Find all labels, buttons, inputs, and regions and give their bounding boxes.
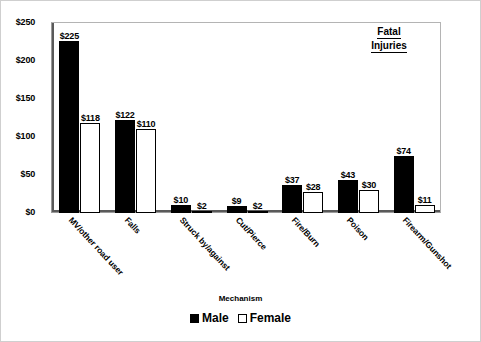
- category-label: Struck by/against: [178, 215, 232, 272]
- bar-chart: $250 $200 $150 $100 $50 $0 $225$118$122$…: [0, 0, 481, 342]
- chart-title: Fatal Injuries: [346, 25, 432, 53]
- bar-value-label: $9: [232, 196, 242, 206]
- bar-value-label: $28: [306, 182, 320, 192]
- bar-value-label: $30: [362, 180, 376, 190]
- bar-value-label: $2: [197, 201, 207, 211]
- bar-group: $225$118: [59, 22, 100, 213]
- bar-female[interactable]: $11: [415, 205, 435, 213]
- legend-item-female[interactable]: Female: [238, 311, 291, 325]
- category-label: Firearm/Gunshot: [401, 215, 454, 271]
- legend-label-female: Female: [250, 311, 291, 325]
- bar-male[interactable]: $74: [394, 156, 414, 213]
- category-label: Falls: [122, 215, 142, 236]
- bar-female[interactable]: $110: [136, 129, 156, 213]
- bar-male[interactable]: $225: [59, 41, 79, 213]
- bar-value-label: $225: [60, 31, 79, 41]
- y-tick-label: $250: [1, 17, 35, 27]
- bar-value-label: $74: [396, 146, 410, 156]
- legend-label-male: Male: [202, 311, 229, 325]
- bar-value-label: $10: [174, 195, 188, 205]
- category-axis-labels: MV/other road userFallsStruck by/against…: [51, 215, 441, 301]
- y-tick-label: $200: [1, 55, 35, 65]
- x-axis-title: Mechanism: [1, 294, 480, 303]
- bar-male[interactable]: $122: [115, 120, 135, 213]
- chart-title-line-2: Injuries: [371, 39, 407, 53]
- legend-swatch-female-icon: [238, 314, 247, 323]
- bar-group: $9$2: [227, 22, 268, 213]
- category-label: Fire/Burn: [289, 215, 321, 249]
- bar-female[interactable]: $2: [248, 211, 268, 213]
- bar-group: $37$28: [282, 22, 323, 213]
- y-tick-label: $150: [1, 93, 35, 103]
- category-label: Poison: [345, 215, 371, 242]
- bar-female[interactable]: $118: [80, 123, 100, 213]
- bar-value-label: $118: [81, 113, 100, 123]
- bar-male[interactable]: $10: [171, 205, 191, 213]
- chart-title-line-1: Fatal: [377, 25, 400, 39]
- bar-value-label: $122: [115, 110, 134, 120]
- bar-value-label: $43: [341, 170, 355, 180]
- legend: Male Female: [1, 311, 480, 325]
- bar-male[interactable]: $37: [282, 185, 302, 213]
- bar-group: $122$110: [115, 22, 156, 213]
- bar-male[interactable]: $9: [227, 206, 247, 213]
- bar-value-label: $2: [253, 201, 263, 211]
- bar-male[interactable]: $43: [338, 180, 358, 213]
- y-tick-label: $50: [1, 169, 35, 179]
- bar-group: $10$2: [171, 22, 212, 213]
- bar-value-label: $11: [418, 195, 432, 205]
- legend-swatch-male-icon: [190, 314, 199, 323]
- y-tick-label: $100: [1, 131, 35, 141]
- bar-female[interactable]: $2: [192, 211, 212, 213]
- category-label: Cut/Pierce: [234, 215, 269, 252]
- bar-female[interactable]: $30: [359, 190, 379, 213]
- legend-item-male[interactable]: Male: [190, 311, 229, 325]
- bar-value-label: $37: [285, 175, 299, 185]
- bar-female[interactable]: $28: [303, 192, 323, 213]
- y-tick-label: $0: [1, 207, 35, 217]
- category-label: MV/other road user: [67, 215, 126, 277]
- bar-value-label: $110: [137, 119, 156, 129]
